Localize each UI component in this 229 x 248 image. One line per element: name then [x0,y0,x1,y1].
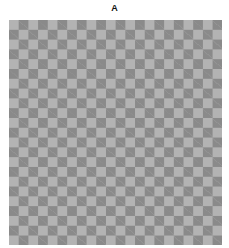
figure-title: A [0,3,229,13]
checkerboard-image [9,20,222,245]
